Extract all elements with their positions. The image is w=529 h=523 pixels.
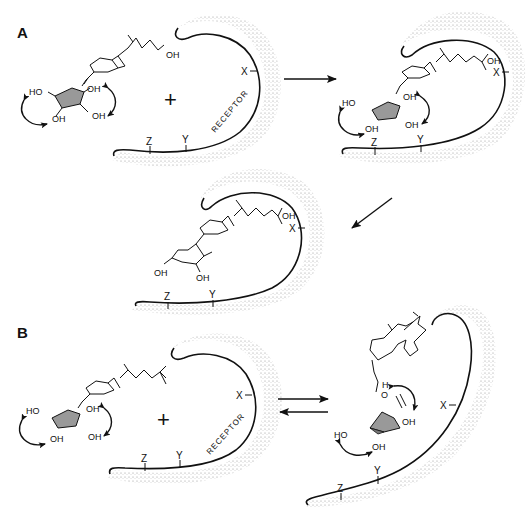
site-x-label: X	[493, 67, 500, 78]
ring-flip-arrow-icon	[104, 408, 112, 436]
site-y-label: Y	[182, 134, 189, 145]
plus-mark: +	[157, 407, 170, 432]
oh-label: OH	[282, 211, 296, 221]
site-x-label: X	[440, 400, 447, 411]
site-x-label: X	[241, 66, 248, 77]
ho-label: HO	[26, 406, 40, 416]
oh-label: OH	[365, 124, 379, 134]
site-z-label: Z	[337, 483, 343, 494]
oh-label: OH	[92, 111, 106, 121]
oh-label: OH	[487, 56, 501, 66]
site-x-label: X	[236, 390, 243, 401]
oh-label: OH	[196, 273, 210, 283]
oh-label: OH	[372, 442, 386, 452]
receptor-label: RECEPTOR	[205, 411, 247, 456]
h-label: H	[382, 380, 389, 390]
panel-label-b: B	[17, 324, 28, 341]
oh-label: OH	[52, 114, 66, 124]
ho-label: HO	[342, 98, 356, 108]
site-y-label: Y	[417, 134, 424, 145]
oh-label: OH	[154, 268, 168, 278]
plus-mark: +	[164, 87, 177, 112]
site-z-label: Z	[164, 291, 170, 302]
o-label: O	[381, 390, 388, 400]
ligand-b2: H O OH HO OH	[334, 312, 426, 455]
site-x-label: X	[289, 223, 296, 234]
oh-label: OH	[87, 84, 101, 94]
ligand-b1: HO OH OH OH	[20, 364, 166, 445]
ligand-a3: OH OH OH	[154, 200, 296, 283]
oh-label: OH	[166, 50, 180, 60]
oh-label: OH	[88, 432, 102, 442]
ligand-a2: OH HO OH OH OH	[339, 48, 501, 135]
oh-label: OH	[402, 417, 416, 427]
oh-label: OH	[405, 120, 419, 130]
ring-flip-arrow-icon	[20, 420, 45, 445]
equilibrium-arrows-icon	[278, 399, 328, 412]
site-y-label: Y	[374, 465, 381, 476]
receptor-a1: X Y Z RECEPTOR +	[112, 15, 281, 167]
site-z-label: Z	[141, 453, 147, 464]
ring-flip-arrow-icon	[420, 96, 429, 124]
ho-label: HO	[334, 430, 348, 440]
oh-label: OH	[50, 434, 64, 444]
receptor-a2: X Y Z	[338, 11, 525, 163]
site-z-label: Z	[371, 137, 377, 148]
receptor-a3: X Y Z	[132, 169, 324, 315]
oh-label: OH	[86, 404, 100, 414]
ho-label: HO	[29, 87, 43, 97]
site-z-label: Z	[146, 136, 152, 147]
receptor-b1: X Y Z RECEPTOR +	[108, 334, 282, 485]
ring-flip-arrow-icon	[339, 112, 364, 135]
reaction-arrow-down-left-icon	[352, 198, 392, 228]
site-y-label: Y	[209, 289, 216, 300]
ligand-a1: OH HO OH OH OH	[22, 35, 180, 125]
oh-label: OH	[403, 92, 417, 102]
ring-flip-arrow-icon	[108, 88, 116, 116]
ring-flip-arrow-icon	[340, 444, 372, 455]
ring-flip-arrow-icon	[22, 100, 47, 125]
panel-label-a: A	[17, 24, 28, 41]
site-y-label: Y	[176, 450, 183, 461]
diagram-canvas: A X Y Z RECEPTOR + OH HO OH OH OH X	[0, 0, 529, 523]
